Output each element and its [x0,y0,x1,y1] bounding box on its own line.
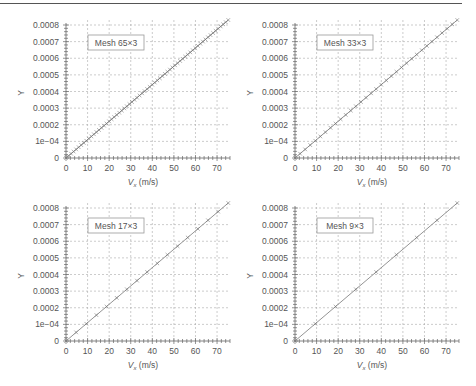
y-tick-label: 1e−04 [35,136,59,146]
y-tick-label: 0.0003 [262,286,288,296]
x-axis-label: Vx (m/s) [357,360,388,371]
y-tick-label: 1e−04 [264,136,288,146]
chart-panel-mesh-9: 01020304050607001e−040.00020.00030.00040… [229,183,467,376]
y-tick-label: 0.0007 [33,220,59,230]
x-tick-label: 30 [355,163,365,173]
x-tick-label: 40 [377,163,387,173]
y-tick-label: 0.0004 [262,87,288,97]
y-tick-label: 0.0008 [262,20,288,30]
x-tick-label: 20 [333,346,343,356]
legend-box: Mesh 17×3 [88,218,144,233]
y-tick-label: 0.0005 [262,70,288,80]
y-tick-label: 0.0007 [33,37,59,47]
x-axis-label: Vx (m/s) [128,360,159,371]
x-tick-label: 60 [420,163,430,173]
y-tick-label: 0 [54,336,59,346]
y-tick-labels: 01e−040.00020.00030.00040.00050.00060.00… [33,20,59,163]
x-tick-label: 10 [312,163,322,173]
x-tick-label: 40 [148,163,158,173]
y-axis-label: Y [16,273,26,279]
y-tick-label: 0.0006 [33,53,59,63]
x-tick-label: 20 [333,163,343,173]
legend-box: Mesh 9×3 [317,218,373,233]
y-tick-label: 1e−04 [35,319,59,329]
x-tick-label: 20 [104,163,114,173]
y-tick-label: 0.0002 [262,120,288,130]
x-tick-label: 70 [441,163,451,173]
y-axis-label: Y [16,90,26,96]
chart-panel-mesh-17: 01020304050607001e−040.00020.00030.00040… [0,183,238,376]
y-tick-label: 0.0008 [262,203,288,213]
y-tick-label: 1e−04 [264,319,288,329]
y-tick-label: 0.0004 [33,87,59,97]
x-tick-label: 60 [420,346,430,356]
x-tick-label: 20 [104,346,114,356]
y-tick-label: 0.0006 [262,236,288,246]
x-tick-labels: 010203040506070 [64,346,222,356]
y-tick-label: 0 [283,153,288,163]
y-axis-label: Y [245,90,255,96]
y-tick-labels: 01e−040.00020.00030.00040.00050.00060.00… [262,20,288,163]
x-tick-label: 0 [64,163,69,173]
y-tick-label: 0.0005 [262,253,288,263]
y-tick-label: 0.0006 [262,53,288,63]
y-tick-label: 0.0008 [33,20,59,30]
y-tick-label: 0.0006 [33,236,59,246]
y-tick-labels: 01e−040.00020.00030.00040.00050.00060.00… [262,203,288,346]
legend-box: Mesh 65×3 [88,35,144,50]
legend-label: Mesh 17×3 [95,221,138,231]
legend-label: Mesh 65×3 [95,38,138,48]
x-tick-label: 70 [212,163,222,173]
x-tick-labels: 010203040506070 [293,163,451,173]
x-tick-label: 0 [293,163,298,173]
legend-label: Mesh 9×3 [326,221,364,231]
x-tick-label: 30 [126,163,136,173]
x-tick-label: 10 [312,346,322,356]
y-tick-label: 0.0003 [33,103,59,113]
y-tick-label: 0.0005 [33,70,59,80]
x-tick-label: 40 [148,346,158,356]
y-tick-label: 0.0003 [33,286,59,296]
y-tick-label: 0.0002 [262,303,288,313]
x-tick-label: 60 [191,346,201,356]
legend-box: Mesh 33×3 [317,35,373,50]
y-tick-labels: 01e−040.00020.00030.00040.00050.00060.00… [33,203,59,346]
x-tick-label: 70 [441,346,451,356]
x-tick-label: 0 [293,346,298,356]
x-tick-label: 30 [355,346,365,356]
y-tick-label: 0.0004 [262,270,288,280]
y-tick-label: 0.0002 [33,120,59,130]
x-tick-label: 50 [169,346,179,356]
x-tick-label: 50 [398,163,408,173]
x-tick-label: 30 [126,346,136,356]
y-tick-label: 0.0005 [33,253,59,263]
x-tick-label: 70 [212,346,222,356]
legend-label: Mesh 33×3 [324,38,367,48]
x-tick-label: 0 [64,346,69,356]
y-tick-label: 0 [54,153,59,163]
x-tick-label: 50 [398,346,408,356]
chart-panel-mesh-33: 01020304050607001e−040.00020.00030.00040… [229,0,467,193]
y-tick-label: 0.0002 [33,303,59,313]
x-tick-labels: 010203040506070 [293,346,451,356]
y-tick-label: 0 [283,336,288,346]
y-tick-label: 0.0008 [33,203,59,213]
x-tick-label: 50 [169,163,179,173]
chart-panel-mesh-65: 01020304050607001e−040.00020.00030.00040… [0,0,238,193]
y-tick-label: 0.0004 [33,270,59,280]
y-tick-label: 0.0003 [262,103,288,113]
y-tick-label: 0.0007 [262,220,288,230]
y-axis-label: Y [245,273,255,279]
x-tick-labels: 010203040506070 [64,163,222,173]
x-tick-label: 10 [83,163,93,173]
y-tick-label: 0.0007 [262,37,288,47]
x-tick-label: 60 [191,163,201,173]
x-tick-label: 10 [83,346,93,356]
x-tick-label: 40 [377,346,387,356]
